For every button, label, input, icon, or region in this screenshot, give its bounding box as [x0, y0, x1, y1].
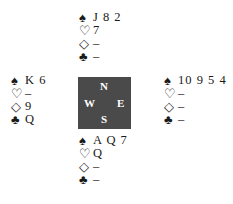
east-hand: ♠ 10 9 5 4 ♡ – ◇ – ♣ – — [164, 74, 227, 126]
compass-west-label: W — [84, 97, 95, 109]
south-hand: ♠ A Q 7 ♡ Q ◇ – ♣ – — [79, 134, 128, 186]
north-hand: ♠ J 8 2 ♡ 7 ◇ – ♣ – — [79, 11, 122, 63]
south-clubs-line: ♣ – — [79, 173, 128, 186]
compass-east-label: E — [117, 97, 124, 109]
compass-box: N W E S — [78, 77, 131, 129]
west-clubs: Q — [25, 113, 35, 126]
east-spades: 10 9 5 4 — [178, 74, 227, 87]
north-clubs-line: ♣ – — [79, 50, 122, 63]
east-clubs-line: ♣ – — [164, 113, 227, 126]
east-clubs: – — [178, 113, 185, 126]
south-clubs: – — [93, 173, 100, 186]
west-hand: ♠ K 6 ♡ – ◇ 9 ♣ Q — [11, 74, 46, 126]
club-icon: ♣ — [79, 50, 93, 63]
west-clubs-line: ♣ Q — [11, 113, 46, 126]
club-icon: ♣ — [164, 113, 178, 126]
east-diamonds-line: ◇ – — [164, 100, 227, 113]
north-clubs: – — [93, 50, 100, 63]
club-icon: ♣ — [11, 113, 25, 126]
club-icon: ♣ — [79, 173, 93, 186]
compass-north-label: N — [100, 80, 108, 92]
compass-south-label: S — [101, 113, 107, 125]
